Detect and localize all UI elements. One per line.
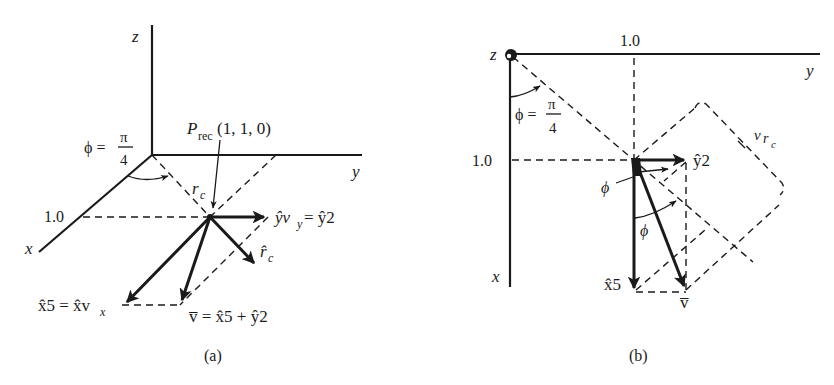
- vrc-tick: [738, 141, 745, 148]
- rc-hat-label: r̂: [260, 242, 267, 261]
- vector-decomposition-diagram: z y x 1.0 ϕ = π 4 r c P rec (1, 1, 0) ŷv…: [0, 0, 834, 385]
- x-component-subscript: x: [99, 305, 106, 319]
- y-projection-dashed: [210, 155, 276, 217]
- yv-label-subscript: y: [296, 217, 303, 231]
- x-axis-label-b: x: [491, 267, 500, 286]
- phi-pointer-line: [616, 177, 633, 183]
- phi-numerator-b: π: [548, 96, 556, 112]
- vrc-r: r: [763, 131, 769, 146]
- phi-label-b: ϕ =: [515, 106, 536, 124]
- v-label-b: v̅: [679, 293, 689, 312]
- yv-label-equals: = ŷ2: [304, 208, 335, 227]
- x-axis-label: x: [24, 239, 33, 258]
- phi-small-label-2: ϕ: [640, 222, 648, 240]
- x-component-label: x̂5 = x̂v: [38, 296, 91, 315]
- rc-unit-vector: [210, 217, 254, 263]
- rc-label: r: [192, 179, 199, 198]
- y-axis-label-b: y: [804, 61, 814, 80]
- y2-label: ŷ2: [693, 151, 710, 170]
- point-p-coords: (1, 1, 0): [217, 119, 271, 138]
- vrc-label: v: [754, 127, 761, 143]
- caption-a: (a): [204, 347, 222, 365]
- phi-direction-dashed: [634, 108, 695, 160]
- x5-label: x̂5: [604, 275, 621, 294]
- perp-y2-dashed: [664, 162, 686, 181]
- perp-v-dashed: [686, 205, 779, 290]
- vrc-subscript: c: [771, 138, 776, 150]
- y-axis-label: y: [350, 162, 360, 181]
- yv-label: ŷv: [273, 208, 291, 227]
- phi-hat-small-vector: [638, 169, 668, 172]
- perp-x5-dashed: [636, 230, 705, 290]
- phi-small-label-1: ϕ: [601, 179, 609, 197]
- phi-numerator: π: [120, 129, 128, 145]
- point-p-label: P: [186, 119, 197, 138]
- y-tick-label-b: 1.0: [620, 32, 640, 49]
- figure-b: z y x 1.0 1.0 ϕ = π 4 ϕ ϕ ŷ2: [472, 32, 820, 365]
- z-axis-label: z: [131, 27, 139, 46]
- x-axis: [39, 155, 152, 252]
- rc-dashed-line: [152, 155, 210, 217]
- figure-a: z y x 1.0 ϕ = π 4 r c P rec (1, 1, 0) ŷv…: [24, 25, 362, 365]
- phi-angle-arc: [128, 176, 168, 180]
- v-sum-label: v̅ = x̂5 + ŷ2: [188, 307, 267, 326]
- phi-label: ϕ =: [84, 139, 105, 157]
- phi-angle-arc-b: [510, 86, 540, 97]
- point-p-subscript: rec: [198, 129, 213, 143]
- point-p-pointer: [213, 140, 220, 208]
- x-tick-label: 1.0: [44, 208, 64, 225]
- point-p-dot: [207, 214, 213, 220]
- z-axis-label-b: z: [489, 45, 497, 64]
- phi-denominator-b: 4: [549, 120, 557, 136]
- phi-denominator: 4: [120, 152, 128, 168]
- x-component-vector: [127, 217, 210, 302]
- x-tick-label-b: 1.0: [472, 152, 492, 169]
- rc-hat-subscript: c: [268, 251, 274, 265]
- caption-b: (b): [629, 347, 648, 365]
- rc-subscript: c: [200, 188, 206, 202]
- z-axis-out-of-page-inner: [507, 54, 511, 58]
